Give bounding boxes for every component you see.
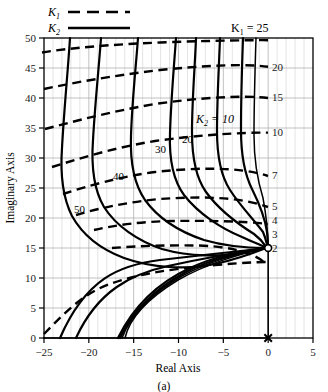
curve-label-40: 40 bbox=[113, 170, 125, 182]
y-tick-label-6: 30 bbox=[25, 152, 37, 164]
right-label-5: 5 bbox=[272, 200, 278, 212]
right-axis-labels: 20 15 10 7 5 4 3 2 bbox=[272, 61, 284, 254]
legend: K1 K2 bbox=[47, 5, 130, 37]
lower-branch-fan bbox=[44, 248, 268, 338]
y-axis-title: Imaginary Axis bbox=[4, 152, 17, 224]
x-axis-title: Real Axis bbox=[155, 362, 201, 374]
right-label-20: 20 bbox=[272, 61, 284, 73]
y-tick-label-5: 25 bbox=[25, 182, 37, 194]
k2-contour-extra-a bbox=[254, 38, 268, 248]
y-tick-label-2: 10 bbox=[25, 272, 37, 284]
right-label-2: 2 bbox=[272, 242, 278, 254]
legend-symbol-k1: K1 bbox=[47, 5, 60, 21]
right-label-10: 10 bbox=[272, 126, 284, 138]
y-axis: 0 5 10 15 20 25 30 35 40 45 50 Imaginary… bbox=[4, 32, 44, 344]
root-contour-figure: 20 15 10 7 5 4 3 2 50 40 30 20 K2 = 10 K… bbox=[0, 0, 328, 392]
y-tick-label-1: 5 bbox=[31, 302, 37, 314]
y-tick-label-7: 35 bbox=[25, 122, 37, 134]
x-tick-label-3: −10 bbox=[170, 346, 188, 358]
y-tick-label-9: 45 bbox=[25, 62, 37, 74]
k1-contour-15 bbox=[45, 97, 268, 129]
y-tick-label-4: 20 bbox=[25, 212, 37, 224]
curve-label-50: 50 bbox=[74, 203, 86, 215]
figure-caption: (a) bbox=[158, 380, 171, 392]
y-tick-label-8: 40 bbox=[25, 92, 37, 104]
k1-contour-20 bbox=[44, 65, 268, 89]
x-axis: −25 −20 −15 −10 −5 0 5 Real Axis bbox=[35, 338, 316, 374]
x-tick-label-6: 5 bbox=[310, 346, 316, 358]
right-label-4: 4 bbox=[272, 214, 278, 226]
k2-contour-30 bbox=[131, 38, 266, 248]
k1-contour-25 bbox=[42, 40, 268, 52]
right-label-7: 7 bbox=[272, 169, 278, 181]
k1-contour-5 bbox=[44, 262, 268, 334]
right-label-3: 3 bbox=[272, 228, 278, 240]
y-tick-label-3: 15 bbox=[25, 242, 37, 254]
x-tick-label-4: −5 bbox=[217, 346, 229, 358]
legend-symbol-k2: K2 bbox=[47, 21, 60, 37]
x-tick-label-0: −25 bbox=[35, 346, 53, 358]
curve-label-20: 20 bbox=[182, 133, 194, 145]
curve-label-30: 30 bbox=[155, 143, 167, 155]
right-label-15: 15 bbox=[272, 91, 284, 103]
inner-annotation-k2: K2 = 10 bbox=[195, 112, 234, 128]
x-tick-label-2: −15 bbox=[125, 346, 143, 358]
y-tick-label-0: 0 bbox=[31, 332, 37, 344]
y-tick-label-10: 50 bbox=[25, 32, 37, 44]
zero-marker bbox=[265, 245, 272, 252]
top-annotation-k1: K1 = 25 bbox=[231, 21, 268, 37]
plot-svg: 20 15 10 7 5 4 3 2 50 40 30 20 K2 = 10 K… bbox=[0, 0, 328, 392]
x-tick-label-1: −20 bbox=[80, 346, 98, 358]
x-tick-label-5: 0 bbox=[265, 346, 271, 358]
branch-e bbox=[76, 248, 268, 338]
